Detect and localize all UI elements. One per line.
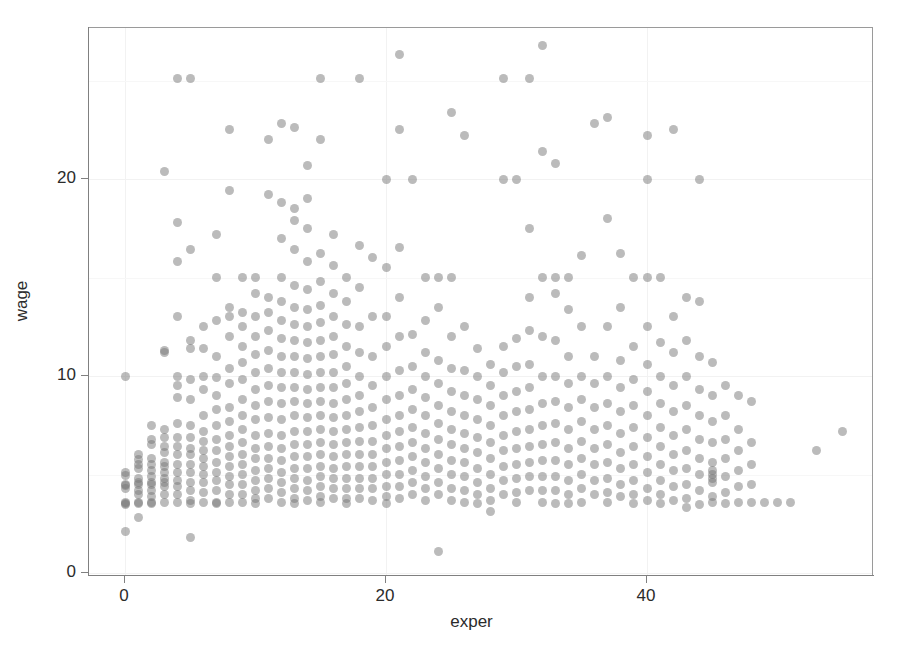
data-point [329,452,338,461]
data-point [160,167,169,176]
data-point [251,466,260,475]
data-point [590,490,599,499]
data-point [251,454,260,463]
data-point [577,498,586,507]
data-point [460,486,469,495]
data-point [473,478,482,487]
data-point [212,391,221,400]
y-axis-line [88,27,89,576]
data-point [682,293,691,302]
data-point [590,460,599,469]
data-point [499,462,508,471]
data-point [616,480,625,489]
data-point [238,342,247,351]
data-point [512,362,521,371]
data-point [277,368,286,377]
data-point [264,190,273,199]
data-point [238,470,247,479]
data-point [616,249,625,258]
data-point [277,383,286,392]
data-point [734,482,743,491]
data-point [512,488,521,497]
data-point [695,500,704,509]
data-point [368,253,377,262]
data-point [551,472,560,481]
data-point [329,383,338,392]
data-point [460,322,469,331]
data-point [251,415,260,424]
data-point [290,303,299,312]
data-point [682,503,691,512]
data-point [747,460,756,469]
data-point [538,472,547,481]
data-point [303,427,312,436]
data-point [277,198,286,207]
data-point [434,450,443,459]
data-point [382,458,391,467]
data-point [316,411,325,420]
data-point [199,427,208,436]
data-point [564,305,573,314]
data-point [303,194,312,203]
data-point [669,125,678,134]
data-point [277,234,286,243]
data-point [277,297,286,306]
data-point [525,442,534,451]
data-point [564,499,573,508]
data-point [395,427,404,436]
data-point [395,470,404,479]
data-point [303,496,312,505]
data-point [212,230,221,239]
data-point [564,490,573,499]
data-point [342,425,351,434]
data-point [173,312,182,321]
data-point [238,425,247,434]
data-point [368,403,377,412]
data-point [329,332,338,341]
data-point [643,452,652,461]
data-point [173,433,182,442]
data-point [303,486,312,495]
data-point [708,478,717,487]
data-point [577,470,586,479]
data-point [225,186,234,195]
data-point [368,462,377,471]
data-point [173,257,182,266]
data-point [199,344,208,353]
y-tick-mark [81,572,88,573]
data-point [225,498,234,507]
data-point [486,484,495,493]
data-point [342,379,351,388]
data-point [238,438,247,447]
data-point [473,499,482,508]
data-point [264,413,273,422]
data-point [434,478,443,487]
data-point [382,263,391,272]
data-point [238,480,247,489]
data-point [303,440,312,449]
data-point [616,356,625,365]
data-point [695,385,704,394]
data-point [329,230,338,239]
data-point [368,450,377,459]
data-point [199,478,208,487]
data-point [238,411,247,420]
data-point [382,482,391,491]
data-point [355,407,364,416]
data-point [577,437,586,446]
data-point [682,480,691,489]
data-point [316,383,325,392]
data-point [695,486,704,495]
data-point [395,125,404,134]
data-point [643,411,652,420]
data-point [199,498,208,507]
data-point [486,496,495,505]
data-point [290,352,299,361]
data-point [434,464,443,473]
data-point [577,484,586,493]
data-point [342,438,351,447]
data-point [225,452,234,461]
data-point [225,480,234,489]
data-point [316,450,325,459]
data-point [616,303,625,312]
